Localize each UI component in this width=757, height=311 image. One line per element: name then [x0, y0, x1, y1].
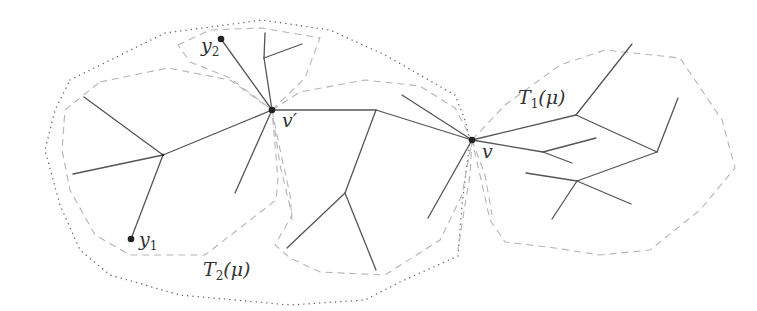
vertex-v-prime — [269, 107, 276, 114]
label-v: v — [482, 140, 493, 162]
label-v-prime: v′ — [282, 109, 298, 131]
dashed-connector-v-down — [458, 140, 472, 250]
region-middle-cluster — [272, 80, 472, 275]
label-T2: T2(μ) — [203, 258, 251, 283]
internal-node-left — [162, 154, 165, 157]
label-y1: y1 — [138, 228, 157, 253]
vertex-y2 — [218, 36, 225, 43]
vertex-v — [469, 137, 476, 144]
region-T2-boundary — [45, 20, 470, 305]
region-top-cluster — [178, 28, 320, 110]
vertex-y1 — [128, 236, 135, 243]
region-left-cluster — [62, 68, 278, 255]
label-y2: y2 — [200, 34, 219, 59]
label-T1: T1(μ) — [518, 86, 566, 111]
tree-diagram: y2 v′ v y1 T1(μ) T2(μ) — [0, 0, 757, 311]
